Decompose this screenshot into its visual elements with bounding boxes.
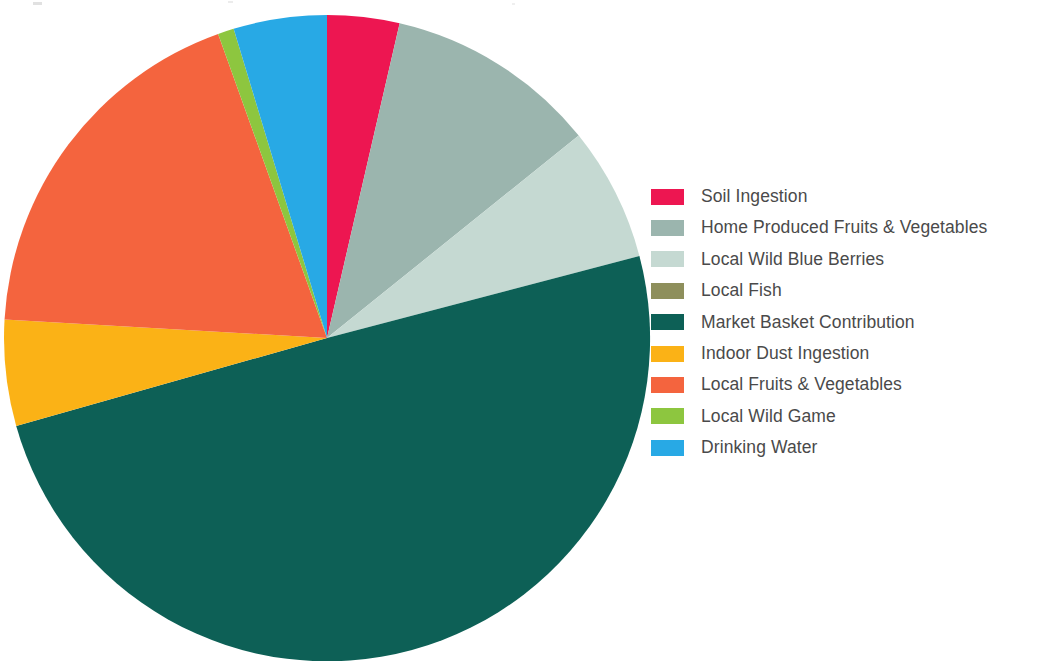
- legend-item-label: Local Wild Blue Berries: [701, 251, 884, 269]
- legend-color-swatch: [651, 314, 684, 330]
- legend-item-label: Local Wild Game: [701, 408, 836, 426]
- scan-artifact-speck: [33, 2, 42, 5]
- legend-color-swatch: [651, 377, 684, 393]
- legend-item[interactable]: Local Wild Game: [651, 401, 1041, 432]
- legend-item-label: Local Fruits & Vegetables: [701, 376, 902, 394]
- scan-artifact-speck: [512, 3, 515, 5]
- legend-item-label: Local Fish: [701, 282, 782, 300]
- legend-item-label: Soil Ingestion: [701, 188, 807, 206]
- legend-item[interactable]: Local Fish: [651, 275, 1041, 306]
- legend-item[interactable]: Drinking Water: [651, 432, 1041, 463]
- legend-color-swatch: [651, 440, 684, 456]
- legend-color-swatch: [651, 346, 684, 362]
- legend-color-swatch: [651, 189, 684, 205]
- legend-item[interactable]: Soil Ingestion: [651, 181, 1041, 212]
- pie-slice-group: [4, 15, 650, 661]
- legend-item[interactable]: Market Basket Contribution: [651, 307, 1041, 338]
- pie-chart-plot-area: [2, 13, 654, 661]
- scan-artifact-speck: [228, 1, 233, 3]
- chart-legend: Soil IngestionHome Produced Fruits & Veg…: [651, 181, 1041, 464]
- legend-color-swatch: [651, 251, 684, 267]
- legend-item-label: Drinking Water: [701, 439, 817, 457]
- pie-chart-svg: [2, 13, 654, 661]
- legend-color-swatch: [651, 408, 684, 424]
- legend-color-swatch: [651, 220, 684, 236]
- legend-item[interactable]: Local Wild Blue Berries: [651, 244, 1041, 275]
- legend-item[interactable]: Home Produced Fruits & Vegetables: [651, 212, 1041, 243]
- legend-item[interactable]: Indoor Dust Ingestion: [651, 338, 1041, 369]
- legend-item-label: Indoor Dust Ingestion: [701, 345, 869, 363]
- legend-item-label: Home Produced Fruits & Vegetables: [701, 219, 987, 237]
- legend-item[interactable]: Local Fruits & Vegetables: [651, 369, 1041, 400]
- legend-color-swatch: [651, 283, 684, 299]
- legend-item-label: Market Basket Contribution: [701, 314, 915, 332]
